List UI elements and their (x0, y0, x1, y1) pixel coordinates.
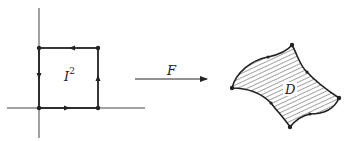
coordinate-axes (7, 8, 145, 138)
diagram-canvas: I2 F D (0, 0, 347, 141)
map-label: F (167, 64, 176, 77)
arrow-bottom-icon (64, 106, 70, 111)
arrow-top-icon (69, 46, 75, 51)
arrow-left-icon (37, 73, 42, 79)
square-label-exponent: 2 (69, 66, 75, 76)
square-label: I2 (64, 70, 75, 83)
region-label: D (285, 83, 295, 96)
arrow-right-icon (96, 75, 101, 81)
